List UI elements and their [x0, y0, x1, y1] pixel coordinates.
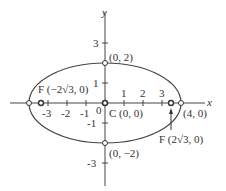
y-tick-label: 1 [93, 77, 99, 89]
left-focus-label: F (−2√3, 0) [38, 83, 89, 96]
top-vertex-label: (0, 2) [109, 51, 133, 64]
y-tick-label: 3 [93, 37, 99, 49]
y-tick-label: -3 [87, 157, 97, 169]
right-vertex-point [179, 101, 184, 106]
center-label: C (0, 0) [109, 107, 143, 120]
ellipse-diagram: y x -3 -2 -1 0 1 2 3 3 1 -1 -3 (0, 2) (0… [0, 0, 226, 191]
x-tick-label: 0 [96, 104, 102, 116]
top-vertex-point [103, 61, 108, 66]
bottom-vertex-point [103, 141, 108, 146]
left-vertex-point [27, 101, 32, 106]
x-tick-label: -3 [42, 107, 52, 119]
x-tick-label: 3 [159, 87, 165, 99]
x-tick-label: -2 [61, 107, 70, 119]
x-axis-label: x [206, 96, 212, 108]
right-focus-point [169, 101, 174, 106]
arrowhead-icon [169, 108, 173, 114]
right-focus-label: F (2√3, 0) [159, 133, 204, 146]
left-focus-point [39, 101, 44, 106]
y-tick-label: -1 [87, 117, 96, 129]
right-vertex-label: (4, 0) [183, 107, 207, 120]
x-tick-label: 2 [140, 87, 146, 99]
bottom-vertex-label: (0, −2) [109, 147, 139, 160]
x-tick-label: 1 [121, 87, 127, 99]
center-point [103, 101, 108, 106]
y-axis-label: y [101, 6, 107, 18]
